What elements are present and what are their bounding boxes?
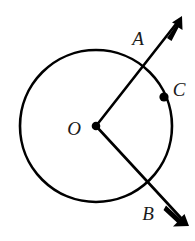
geometry-canvas [0, 0, 195, 241]
ray-OB-line [96, 126, 181, 218]
center-point-O-dot [92, 122, 101, 131]
label-point-o: O [67, 119, 81, 138]
ray-OA-arrowhead-icon [167, 16, 183, 41]
ray-OB-arrowhead-icon [164, 206, 190, 227]
geometry-figure: A C O B [0, 0, 195, 241]
label-point-a: A [132, 29, 144, 48]
arc-point-C-dot [159, 92, 168, 101]
label-point-c: C [173, 80, 186, 99]
label-point-b: B [142, 204, 154, 223]
